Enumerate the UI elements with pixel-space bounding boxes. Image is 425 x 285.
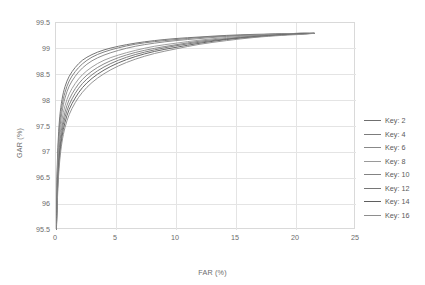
legend-item-label: Key: 2	[385, 116, 405, 125]
y-tick-label: 97.5	[0, 121, 50, 130]
legend-color-swatch	[364, 134, 381, 135]
legend-color-swatch	[364, 147, 381, 148]
legend-color-swatch	[364, 201, 381, 202]
series-line	[56, 33, 314, 230]
x-tick-label: 20	[291, 233, 299, 242]
legend-color-swatch	[364, 215, 381, 216]
x-tick-label: 15	[231, 233, 239, 242]
chart-container: GAR (%) FAR (%) 95.59696.59797.59898.599…	[0, 0, 425, 285]
series-line	[56, 33, 314, 230]
series-line	[56, 33, 314, 230]
legend-color-swatch	[364, 174, 381, 175]
plot-area	[55, 22, 355, 229]
legend-item-label: Key: 4	[385, 130, 405, 139]
series-line	[56, 33, 314, 230]
y-tick-label: 96.5	[0, 173, 50, 182]
legend-item[interactable]: Key: 16	[364, 209, 409, 222]
legend-item[interactable]: Key: 2	[364, 114, 409, 127]
legend-color-swatch	[364, 188, 381, 189]
legend-item[interactable]: Key: 4	[364, 128, 409, 141]
series-line	[56, 33, 314, 230]
legend-item[interactable]: Key: 12	[364, 182, 409, 195]
legend-item[interactable]: Key: 6	[364, 141, 409, 154]
legend-item-label: Key: 6	[385, 143, 405, 152]
legend-item-label: Key: 8	[385, 157, 405, 166]
y-tick-label: 95.5	[0, 225, 50, 234]
series-line	[56, 33, 314, 230]
series-line	[56, 33, 314, 230]
legend-item-label: Key: 16	[385, 211, 409, 220]
legend-item[interactable]: Key: 14	[364, 195, 409, 208]
y-tick-label: 99.5	[0, 18, 50, 27]
x-tick-label: 0	[53, 233, 57, 242]
legend-item-label: Key: 10	[385, 170, 409, 179]
y-tick-label: 96	[0, 199, 50, 208]
chart-legend: Key: 2Key: 4Key: 6Key: 8Key: 10Key: 12Ke…	[364, 114, 409, 222]
y-tick-label: 99	[0, 43, 50, 52]
y-tick-label: 98.5	[0, 69, 50, 78]
y-tick-label: 98	[0, 95, 50, 104]
legend-item-label: Key: 14	[385, 197, 409, 206]
legend-item-label: Key: 12	[385, 184, 409, 193]
legend-item[interactable]: Key: 10	[364, 168, 409, 181]
y-tick-label: 97	[0, 147, 50, 156]
legend-item[interactable]: Key: 8	[364, 155, 409, 168]
legend-color-swatch	[364, 120, 381, 121]
x-tick-label: 5	[113, 233, 117, 242]
x-tick-label: 25	[351, 233, 359, 242]
series-line	[56, 33, 314, 230]
x-axis-title: FAR (%)	[0, 268, 425, 277]
x-tick-label: 10	[171, 233, 179, 242]
series-curves	[56, 23, 356, 230]
legend-color-swatch	[364, 161, 381, 162]
